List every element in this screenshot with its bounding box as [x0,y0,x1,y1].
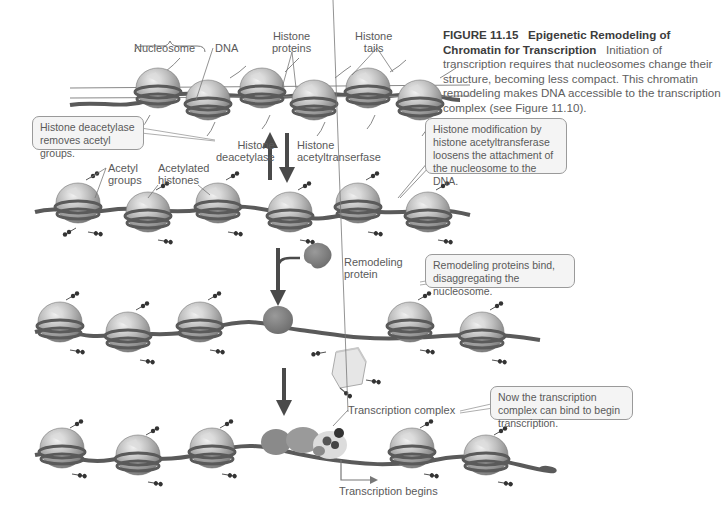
label-remodeling-protein: Remodelingprotein [344,256,403,280]
nucleosome-icon [105,312,151,352]
nucleosome-icon [387,302,433,342]
nucleosome-icon [239,68,285,108]
row-remodeling-bound [35,291,540,400]
arrow-transcription [276,368,292,416]
callout-remodeling: Remodeling proteins bind, disaggregating… [425,254,575,288]
label-acetyl-groups: Acetylgroups [108,162,142,186]
nucleosome-icon [463,435,509,475]
acetylated-nucleosome-icon [195,183,241,223]
figure-number: FIGURE 11.15 [443,28,518,41]
nucleosome-icon [459,312,505,352]
label-histone-acetyltransferase: Histoneacetyltranserfase [297,139,381,163]
nucleosome-icon [397,80,443,120]
nucleosome-icon [185,80,231,120]
remodeling-protein-icon [304,243,332,269]
transcription-start-arrow-icon [370,476,378,484]
nucleosome-icon [345,68,391,108]
label-histone-proteins: Histoneproteins [272,30,311,54]
acetylated-nucleosome-icon [267,192,313,232]
row-acetylated-chromatin [35,162,470,248]
label-histone-tails: Histonetails [355,30,392,54]
callout-acetyltransferase: Histone modification by histone acetyltr… [425,118,567,174]
arrow-remodeling [270,243,332,306]
acetylated-nucleosome-icon [405,192,451,232]
callout-transcription: Now the transcription complex can bind t… [490,386,633,420]
nucleosome-icon [177,302,223,342]
label-histone-deacetylase: Histonedeacetylase [216,139,275,163]
nucleosome-icon [389,428,435,468]
nucleosome-icon [291,80,337,120]
remodeling-protein-bound-icon [263,306,293,334]
nucleosome-icon [37,302,83,342]
nucleosome-icon [39,428,85,468]
acetylated-nucleosome-icon [335,183,381,223]
nucleosome-icon [135,68,181,108]
nucleosome-icon [115,435,161,475]
label-transcription-begins: Transcription begins [339,485,438,497]
callout-deacetylase: Histone deacetylase removes acetyl group… [32,116,144,150]
nucleosome-icon [189,428,235,468]
acetylated-nucleosome-icon [55,183,101,223]
label-dna: DNA [215,42,238,54]
label-transcription-complex: Transcription complex [348,404,455,416]
label-acetylated-histones: Acetylatedhistones [158,162,209,186]
figure-caption: FIGURE 11.15 Epigenetic Remodeling of Ch… [443,28,723,115]
label-nucleosome: Nucleosome [134,42,195,54]
